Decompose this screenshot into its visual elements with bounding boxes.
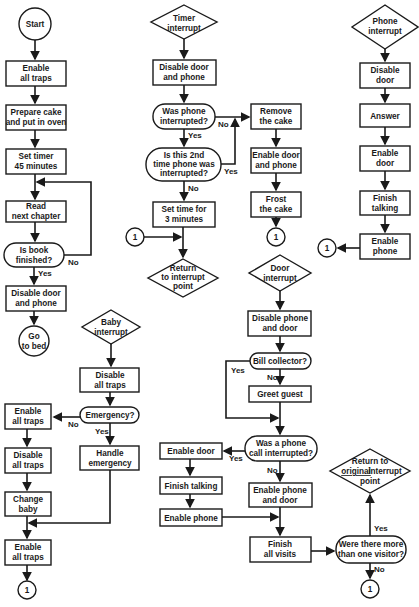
svg-text:Read: Read — [26, 202, 46, 211]
svg-text:Answer: Answer — [370, 112, 400, 121]
svg-text:than one visitor?: than one visitor? — [338, 550, 404, 559]
svg-text:45 minutes: 45 minutes — [15, 162, 58, 171]
svg-text:baby: baby — [18, 505, 38, 514]
svg-text:interrupt: interrupt — [167, 24, 201, 33]
svg-text:Enable door: Enable door — [167, 447, 215, 456]
svg-text:Disable: Disable — [95, 371, 125, 380]
svg-text:1: 1 — [133, 233, 138, 242]
svg-text:next chapter: next chapter — [12, 212, 61, 221]
svg-text:Timer: Timer — [173, 14, 196, 23]
svg-text:Disable door: Disable door — [11, 289, 61, 298]
svg-text:talking: talking — [372, 204, 398, 213]
door-interrupt-flow: Door interrupt Disable phone and door Bi… — [160, 255, 410, 598]
svg-text:the cake: the cake — [260, 205, 293, 214]
svg-text:Enable phone: Enable phone — [164, 514, 218, 523]
svg-text:all visits: all visits — [264, 550, 297, 559]
svg-text:3 minutes: 3 minutes — [165, 215, 204, 224]
svg-text:to bed: to bed — [22, 342, 47, 351]
svg-text:Frost: Frost — [266, 195, 287, 204]
phone-interrupt-flow: Phone interrupt Disable door Answer Enab… — [318, 5, 418, 259]
svg-text:Enable: Enable — [372, 237, 399, 246]
svg-text:interrupted?: interrupted? — [160, 117, 208, 126]
svg-text:all traps: all traps — [12, 553, 44, 562]
svg-text:Was a phone: Was a phone — [256, 439, 307, 448]
svg-text:Return to: Return to — [352, 457, 388, 466]
svg-text:and door: and door — [262, 324, 298, 333]
svg-text:Is book: Is book — [20, 246, 49, 255]
svg-text:1: 1 — [25, 586, 30, 595]
svg-text:Enable phone: Enable phone — [253, 486, 307, 495]
svg-text:No: No — [218, 120, 229, 129]
svg-text:Baby: Baby — [101, 318, 121, 327]
svg-text:1: 1 — [325, 244, 330, 253]
svg-text:Return: Return — [170, 264, 196, 273]
svg-text:door: door — [376, 76, 395, 85]
svg-text:interrupt: interrupt — [263, 274, 297, 283]
svg-text:call interrupted?: call interrupted? — [249, 449, 313, 458]
svg-text:No: No — [267, 466, 278, 475]
timer-interrupt-flow: Timer interrupt Disable door and phone W… — [126, 5, 301, 297]
svg-text:all traps: all traps — [12, 461, 44, 470]
svg-text:Change: Change — [13, 495, 43, 504]
interrupt-flowchart: Start Enable all traps Prepare cake and … — [0, 0, 419, 607]
svg-text:time phone was: time phone was — [153, 160, 215, 169]
svg-text:phone: phone — [373, 247, 398, 256]
svg-text:point: point — [360, 477, 380, 486]
svg-text:1: 1 — [274, 233, 279, 242]
svg-text:Remove: Remove — [260, 107, 292, 116]
svg-text:Was phone: Was phone — [162, 107, 206, 116]
svg-text:No: No — [267, 373, 278, 382]
svg-text:and door: and door — [262, 496, 298, 505]
svg-text:No: No — [68, 258, 79, 267]
svg-text:and phone: and phone — [255, 161, 297, 170]
svg-text:Finish talking: Finish talking — [165, 482, 218, 491]
main-program-flow: Start Enable all traps Prepare cake and … — [4, 8, 91, 356]
svg-text:and phone: and phone — [163, 73, 205, 82]
svg-text:point: point — [173, 282, 193, 291]
svg-text:Yes: Yes — [374, 524, 388, 533]
svg-text:No: No — [68, 420, 79, 429]
svg-text:Is this 2nd: Is this 2nd — [164, 151, 205, 160]
svg-text:interrupted?: interrupted? — [160, 169, 208, 178]
door-interrupt-entry — [249, 255, 311, 291]
go-to-bed-terminal — [19, 326, 49, 356]
svg-text:Finish: Finish — [268, 540, 292, 549]
svg-text:Phone: Phone — [372, 17, 397, 26]
svg-text:original: original — [341, 467, 371, 476]
svg-text:Disable: Disable — [370, 66, 400, 75]
svg-text:Enable door: Enable door — [252, 151, 300, 160]
svg-text:Finish: Finish — [373, 194, 397, 203]
svg-text:Yes: Yes — [95, 427, 109, 436]
svg-text:1: 1 — [368, 585, 373, 594]
svg-text:Bill collector?: Bill collector? — [253, 357, 307, 366]
svg-text:to interrupt: to interrupt — [161, 273, 205, 282]
svg-text:Yes: Yes — [38, 269, 52, 278]
svg-text:No: No — [188, 184, 199, 193]
svg-text:Enable: Enable — [15, 543, 42, 552]
svg-text:and put in oven: and put in oven — [6, 118, 67, 127]
svg-text:Handle: Handle — [96, 449, 124, 458]
svg-text:Disable phone: Disable phone — [252, 314, 308, 323]
svg-text:all traps: all traps — [20, 74, 52, 83]
svg-text:Enable: Enable — [372, 149, 399, 158]
svg-text:Set timer: Set timer — [18, 152, 54, 161]
svg-text:Enable: Enable — [15, 407, 42, 416]
svg-text:Greet guest: Greet guest — [257, 390, 303, 399]
svg-text:finished?: finished? — [16, 256, 52, 265]
svg-text:interrupt: interrupt — [368, 467, 402, 476]
svg-text:No: No — [374, 565, 385, 574]
svg-text:Yes: Yes — [224, 167, 238, 176]
svg-text:interrupt: interrupt — [94, 328, 128, 337]
svg-text:Enable: Enable — [23, 64, 50, 73]
svg-text:Disable door: Disable door — [159, 63, 209, 72]
svg-text:Prepare cake: Prepare cake — [11, 108, 62, 117]
svg-text:Go: Go — [28, 332, 39, 341]
svg-text:door: door — [376, 159, 395, 168]
svg-text:Disable: Disable — [13, 451, 43, 460]
svg-text:emergency: emergency — [88, 459, 132, 468]
svg-text:Emergency?: Emergency? — [85, 411, 134, 420]
svg-text:all traps: all traps — [12, 417, 44, 426]
svg-text:the cake: the cake — [260, 117, 293, 126]
svg-text:Yes: Yes — [229, 454, 243, 463]
svg-text:and phone: and phone — [15, 299, 57, 308]
